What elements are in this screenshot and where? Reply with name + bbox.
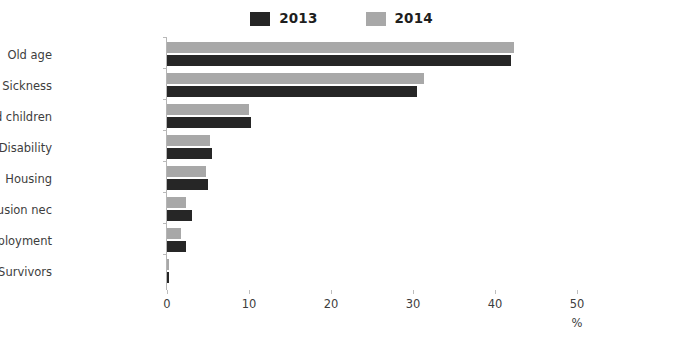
x-axis: % 01020304050 bbox=[167, 290, 577, 330]
bar-group bbox=[167, 135, 577, 161]
category-label: Unemployment bbox=[0, 236, 52, 248]
legend-label-2014: 2014 bbox=[395, 12, 433, 26]
category-label: Disability bbox=[0, 143, 52, 155]
x-axis-tick bbox=[331, 290, 332, 294]
legend-item-2014: 2014 bbox=[366, 12, 433, 26]
y-axis-tick bbox=[163, 223, 167, 224]
bar-2014 bbox=[167, 259, 169, 270]
bar-2013 bbox=[167, 179, 208, 190]
x-axis-tick bbox=[495, 290, 496, 294]
x-axis-tick bbox=[249, 290, 250, 294]
x-axis-tick-label: 20 bbox=[311, 299, 351, 311]
bar-2014 bbox=[167, 166, 206, 177]
x-axis-tick-label: 50 bbox=[557, 299, 597, 311]
bar-group bbox=[167, 259, 577, 285]
y-axis-tick bbox=[163, 192, 167, 193]
y-axis-tick bbox=[163, 254, 167, 255]
y-axis-tick bbox=[163, 37, 167, 38]
category-label: Social exclusion nec bbox=[0, 205, 52, 217]
bar-2014 bbox=[167, 228, 181, 239]
category-label: Housing bbox=[0, 174, 52, 186]
legend-item-2013: 2013 bbox=[250, 12, 317, 26]
bar-2014 bbox=[167, 197, 186, 208]
y-axis-tick bbox=[163, 68, 167, 69]
bar-2013 bbox=[167, 272, 169, 283]
category-label: Old age bbox=[0, 50, 52, 62]
category-label: Sickness bbox=[0, 81, 52, 93]
x-axis-tick-label: 30 bbox=[393, 299, 433, 311]
y-axis-tick bbox=[163, 130, 167, 131]
bar-2013 bbox=[167, 86, 417, 97]
bar-group bbox=[167, 42, 577, 68]
category-label: Survivors bbox=[0, 267, 52, 279]
legend-swatch-2014 bbox=[366, 12, 386, 26]
bar-chart: 2013 2014 Old ageSicknessFamily and chil… bbox=[0, 0, 683, 363]
bar-2013 bbox=[167, 241, 186, 252]
x-axis-unit-label: % bbox=[557, 318, 597, 330]
x-axis-tick-label: 0 bbox=[147, 299, 187, 311]
legend-label-2013: 2013 bbox=[279, 12, 317, 26]
x-axis-tick-label: 40 bbox=[475, 299, 515, 311]
bar-group bbox=[167, 73, 577, 99]
y-axis-tick bbox=[163, 99, 167, 100]
bar-2014 bbox=[167, 42, 514, 53]
bar-2013 bbox=[167, 117, 251, 128]
legend-swatch-2013 bbox=[250, 12, 270, 26]
x-axis-tick-label: 10 bbox=[229, 299, 269, 311]
bar-group bbox=[167, 197, 577, 223]
x-axis-tick bbox=[167, 290, 168, 294]
chart-legend: 2013 2014 bbox=[0, 8, 683, 30]
bar-2013 bbox=[167, 210, 192, 221]
bar-group bbox=[167, 166, 577, 192]
y-axis-tick bbox=[163, 161, 167, 162]
category-label: Family and children bbox=[0, 112, 52, 124]
bar-2013 bbox=[167, 148, 212, 159]
plot-area: Old ageSicknessFamily and childrenDisabi… bbox=[167, 38, 577, 290]
bar-group bbox=[167, 104, 577, 130]
x-axis-tick bbox=[413, 290, 414, 294]
bar-2014 bbox=[167, 104, 249, 115]
bar-2013 bbox=[167, 55, 511, 66]
bar-2014 bbox=[167, 135, 210, 146]
x-axis-tick bbox=[577, 290, 578, 294]
bar-2014 bbox=[167, 73, 424, 84]
bar-group bbox=[167, 228, 577, 254]
